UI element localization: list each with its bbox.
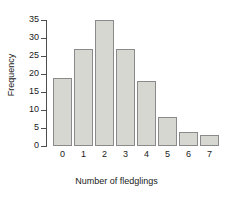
x-tick-label: 4 (136, 150, 157, 159)
x-axis-title-text: Number of fledglings (75, 176, 158, 186)
histogram-bar (95, 20, 114, 146)
histogram-bar (158, 117, 177, 146)
bar-slot (136, 20, 157, 146)
y-tick-mark (41, 20, 46, 21)
x-tick-label: 3 (115, 150, 136, 159)
y-tick-label: 35 (9, 15, 39, 24)
histogram-bar (116, 49, 135, 146)
histogram-bar (179, 132, 198, 146)
x-tick-label: 0 (52, 150, 73, 159)
histogram-bar (74, 49, 93, 146)
x-tick-label: 6 (178, 150, 199, 159)
histogram-chart: Frequency 05101520253035 01234567 Number… (0, 0, 233, 200)
y-tick-label: 20 (9, 69, 39, 78)
bar-slot (115, 20, 136, 146)
bar-slot (73, 20, 94, 146)
y-tick-mark (41, 38, 46, 39)
y-tick-label: 0 (9, 141, 39, 150)
bar-slot (52, 20, 73, 146)
bar-slot (178, 20, 199, 146)
y-tick-mark (41, 128, 46, 129)
y-tick-mark (41, 110, 46, 111)
histogram-bar (137, 81, 156, 146)
y-tick-label: 15 (9, 87, 39, 96)
x-tick-label: 5 (157, 150, 178, 159)
y-axis-line (46, 20, 47, 147)
plot-area: 05101520253035 01234567 (0, 0, 233, 200)
y-tick-label: 25 (9, 51, 39, 60)
bar-slot (94, 20, 115, 146)
x-axis-title: Number of fledglings (0, 176, 233, 186)
histogram-bar (200, 135, 219, 146)
y-tick-mark (41, 146, 46, 147)
y-tick-mark (41, 92, 46, 93)
bar-slot (199, 20, 220, 146)
histogram-bar (53, 78, 72, 146)
bars-group (52, 20, 220, 146)
bar-slot (157, 20, 178, 146)
y-tick-mark (41, 74, 46, 75)
y-tick-label: 10 (9, 105, 39, 114)
y-tick-label: 30 (9, 33, 39, 42)
x-tick-label: 7 (199, 150, 220, 159)
y-tick-mark (41, 56, 46, 57)
y-tick-label: 5 (9, 123, 39, 132)
x-tick-label: 2 (94, 150, 115, 159)
x-tick-label: 1 (73, 150, 94, 159)
